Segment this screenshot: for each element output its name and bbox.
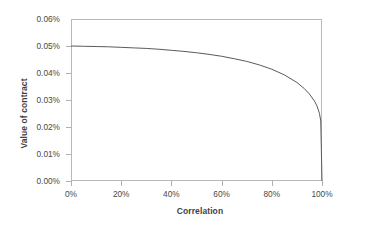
y-axis-tick-label: 0.00% bbox=[18, 176, 60, 186]
y-axis-tick-mark bbox=[66, 46, 71, 47]
y-axis-tick-label: 0.04% bbox=[18, 68, 60, 78]
y-axis-tick-label: 0.05% bbox=[18, 41, 60, 51]
x-axis-tick-label: 0% bbox=[51, 189, 91, 199]
y-axis-tick-mark bbox=[66, 154, 71, 155]
x-axis-tick-mark bbox=[322, 181, 323, 186]
y-axis-tick-mark bbox=[66, 100, 71, 101]
y-axis-tick-label: 0.01% bbox=[18, 149, 60, 159]
data-series-line bbox=[71, 19, 322, 181]
x-axis-tick-label: 40% bbox=[151, 189, 191, 199]
x-axis-tick-mark bbox=[71, 181, 72, 186]
y-axis-tick-mark bbox=[66, 127, 71, 128]
x-axis-tick-mark bbox=[222, 181, 223, 186]
y-axis-tick-mark bbox=[66, 73, 71, 74]
chart-container: Value of contract 0.00%0.01%0.02%0.03%0.… bbox=[0, 0, 380, 227]
x-axis-tick-mark bbox=[171, 181, 172, 186]
x-axis-tick-label: 20% bbox=[101, 189, 141, 199]
x-axis-tick-label: 80% bbox=[252, 189, 292, 199]
y-axis-tick-label: 0.03% bbox=[18, 95, 60, 105]
y-axis-tick-label: 0.06% bbox=[18, 14, 60, 24]
x-axis-tick-label: 100% bbox=[302, 189, 342, 199]
x-axis-title: Correlation bbox=[74, 206, 326, 216]
x-axis-tick-mark bbox=[121, 181, 122, 186]
x-axis-tick-mark bbox=[272, 181, 273, 186]
y-axis-tick-label: 0.02% bbox=[18, 122, 60, 132]
x-axis-tick-label: 60% bbox=[202, 189, 242, 199]
